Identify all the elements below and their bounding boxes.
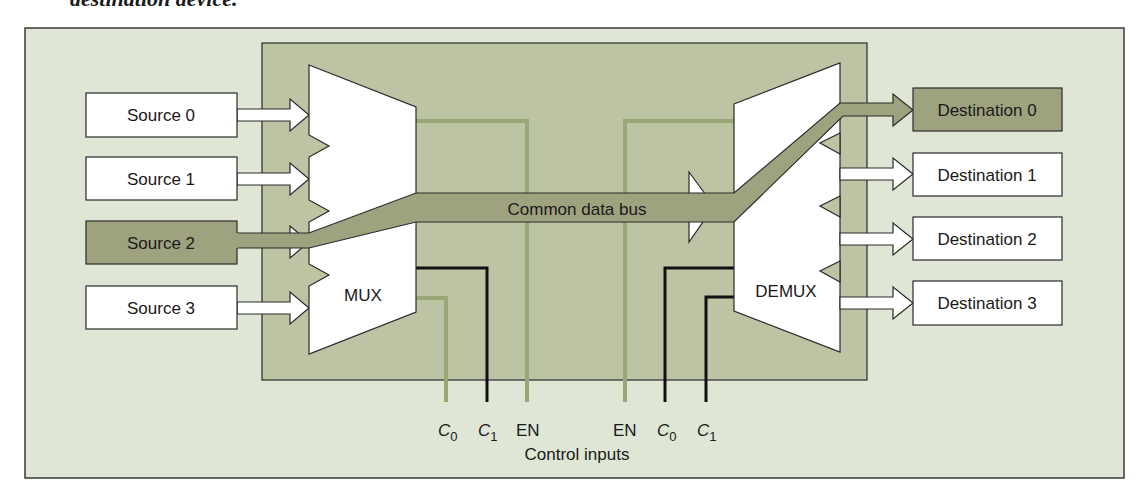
destination-1: Destination 1 — [913, 153, 1062, 196]
destination-3: Destination 3 — [913, 281, 1062, 325]
destination-0-selected: Destination 0 — [913, 88, 1062, 131]
source-label: Source 0 — [127, 106, 195, 125]
destination-label: Destination 3 — [937, 294, 1036, 313]
source-label: Source 2 — [127, 234, 195, 253]
bus-label: Common data bus — [508, 200, 647, 219]
source-label: Source 3 — [127, 299, 195, 318]
destination-label: Destination 2 — [937, 230, 1036, 249]
mux-demux-diagram: destination device. Common data — [0, 0, 1142, 503]
source-2-selected: Source 2 — [86, 221, 237, 264]
destination-label: Destination 1 — [937, 166, 1036, 185]
source-label: Source 1 — [127, 170, 195, 189]
source-0: Source 0 — [86, 93, 237, 137]
control-inputs-caption: Control inputs — [525, 445, 630, 464]
mux-en-label: EN — [516, 421, 540, 440]
destination-label: Destination 0 — [937, 101, 1036, 120]
source-1: Source 1 — [86, 157, 237, 200]
source-3: Source 3 — [86, 286, 237, 329]
demux-en-label: EN — [613, 421, 637, 440]
mux-label: MUX — [344, 286, 382, 305]
destination-2: Destination 2 — [913, 217, 1062, 260]
caption-fragment: destination device. — [70, 0, 237, 11]
demux-label: DEMUX — [755, 282, 816, 301]
